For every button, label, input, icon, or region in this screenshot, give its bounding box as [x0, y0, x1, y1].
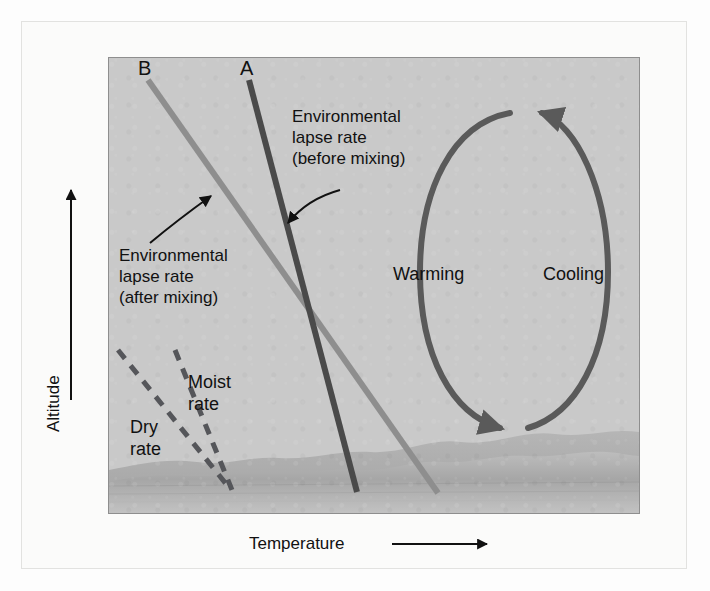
- before-mixing-annotation-line1: Environmental: [292, 107, 401, 127]
- after-mixing-annotation-line2: lapse rate: [119, 267, 194, 287]
- temperature-axis-label: Temperature: [249, 534, 344, 554]
- before-mixing-leader-arrow: [288, 190, 340, 223]
- cooling-label: Cooling: [543, 264, 604, 285]
- before-mixing-annotation-line2: lapse rate: [292, 128, 367, 148]
- after-mixing-annotation-line1: Environmental: [119, 246, 228, 266]
- moist-rate-label-line2: rate: [188, 394, 219, 415]
- series-label-b: B: [138, 57, 151, 81]
- after-mixing-leader-arrow: [150, 196, 211, 243]
- warming-label: Warming: [393, 264, 464, 285]
- moist-rate-label-line1: Moist: [188, 372, 231, 393]
- dry-rate-label-line1: Dry: [130, 417, 158, 438]
- series-label-a: A: [240, 57, 253, 81]
- dry-rate-label-line2: rate: [130, 439, 161, 460]
- moist-rate-dashed-line: [175, 350, 232, 490]
- figure-root: B A Environmental lapse rate (before mix…: [0, 0, 710, 591]
- diagram-vector-layer: [0, 0, 710, 591]
- after-mixing-annotation-line3: (after mixing): [119, 288, 218, 308]
- altitude-axis-label: Altitude: [44, 375, 64, 432]
- before-mixing-annotation-line3: (before mixing): [292, 149, 405, 169]
